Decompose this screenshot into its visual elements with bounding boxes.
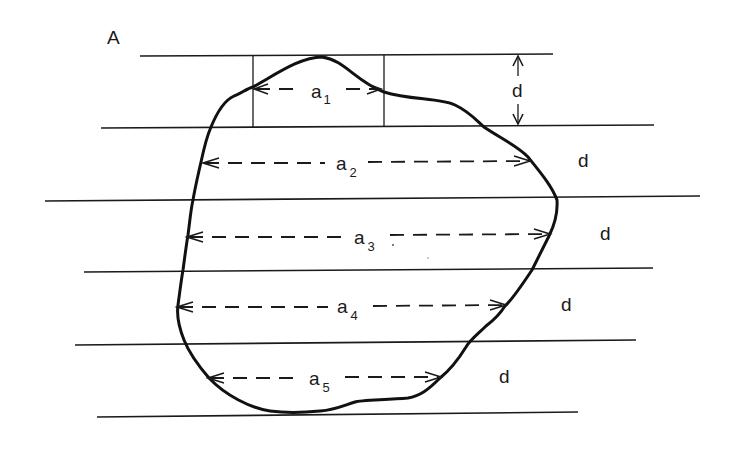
strip-5-spacing-label: d	[499, 366, 510, 387]
chord-a1: a1	[254, 81, 381, 107]
irregular-area-outline	[178, 57, 557, 413]
boundary-line-2	[101, 125, 654, 128]
strip-3-spacing-label: d	[600, 223, 611, 244]
strip-1-height-arrow: d	[512, 56, 523, 124]
chord-a1-label: a1	[311, 81, 331, 107]
boundary-line-5	[75, 340, 636, 345]
strip-1-spacing-label: d	[512, 80, 523, 101]
strip-4-spacing-label: d	[561, 294, 572, 315]
boundary-line-3	[45, 196, 700, 201]
chord-a5-label: a5	[309, 368, 330, 395]
boundary-line-1	[140, 54, 553, 56]
chord-a3-label: a3	[354, 227, 375, 254]
chord-a2-label: a2	[336, 153, 357, 180]
chord-a4-label: a4	[337, 296, 358, 323]
chord-a2: a2 d	[203, 150, 589, 180]
scan-speck	[427, 257, 429, 259]
boundary-line-4	[84, 268, 653, 272]
chord-a5: a5 d	[208, 366, 510, 395]
strip-method-diagram: A d a1 a2	[0, 0, 736, 461]
strip-2-spacing-label: d	[578, 150, 589, 171]
panel-label: A	[107, 27, 120, 48]
boundary-line-6	[97, 412, 578, 417]
scan-speck	[392, 244, 394, 246]
